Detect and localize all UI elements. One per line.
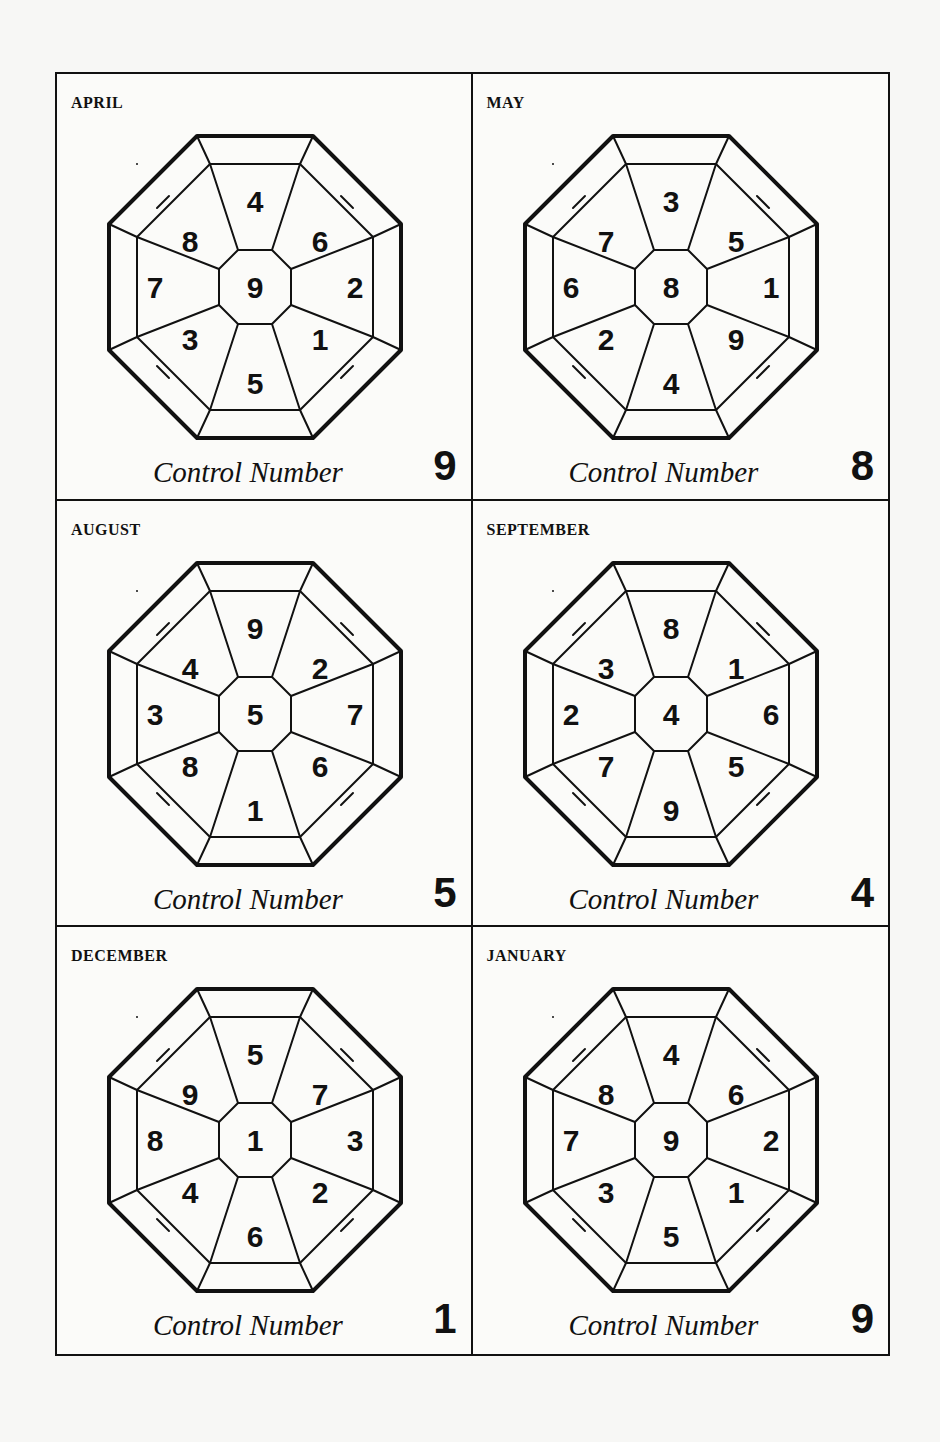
cell-southeast: 2 [312, 1176, 329, 1209]
octagon-chart: 8 1 6 5 9 7 2 3 4 [521, 559, 821, 869]
octagon-chart: 5 7 3 2 6 4 8 9 1 [105, 985, 405, 1295]
cell-north: 4 [247, 185, 264, 218]
octagon-chart: 4 6 2 1 5 3 7 8 9 [521, 985, 821, 1295]
cell-northeast: 7 [312, 1078, 329, 1111]
month-panel: MAY [473, 74, 889, 501]
month-label: AUGUST [71, 521, 141, 539]
octagon-chart: 3 5 1 9 4 2 6 7 8 [521, 132, 821, 442]
cell-northwest: 9 [182, 1078, 199, 1111]
cell-west: 8 [147, 1124, 164, 1157]
cell-northwest: 3 [597, 652, 614, 685]
cell-west: 2 [562, 698, 579, 731]
cell-east: 2 [347, 271, 364, 304]
cell-south: 6 [247, 1220, 264, 1253]
cell-southwest: 2 [597, 323, 614, 356]
cell-east: 7 [347, 698, 364, 731]
cell-south: 4 [662, 367, 679, 400]
month-panel: JANUARY [473, 927, 889, 1354]
cell-center: 4 [662, 698, 679, 731]
month-label: JANUARY [487, 947, 567, 965]
cell-southeast: 5 [727, 750, 744, 783]
cell-south: 1 [247, 794, 264, 827]
month-label: MAY [487, 94, 525, 112]
month-panel: DECEMBER [57, 927, 473, 1354]
month-label: DECEMBER [71, 947, 167, 965]
cell-southwest: 8 [182, 750, 199, 783]
control-number-label: Control Number [153, 456, 343, 489]
month-panel: APRIL [57, 74, 473, 501]
cell-north: 4 [662, 1038, 679, 1071]
cell-southeast: 1 [727, 1176, 744, 1209]
cell-center: 1 [247, 1124, 264, 1157]
octagon-chart: 9 2 7 6 1 8 3 4 5 [105, 559, 405, 869]
month-panel: SEPTEMBER [473, 501, 889, 928]
cell-northeast: 1 [727, 652, 744, 685]
cell-east: 6 [762, 698, 779, 731]
month-label: APRIL [71, 94, 123, 112]
control-number-label: Control Number [569, 883, 759, 916]
cell-southwest: 3 [182, 323, 199, 356]
cell-northeast: 2 [312, 652, 329, 685]
monthly-chart-grid: APRIL [55, 72, 890, 1356]
control-number-value: 1 [433, 1295, 456, 1343]
cell-northeast: 6 [727, 1078, 744, 1111]
cell-west: 7 [562, 1124, 579, 1157]
month-label: SEPTEMBER [487, 521, 590, 539]
control-number-value: 8 [851, 442, 874, 490]
month-panel: AUGUST [57, 501, 473, 928]
cell-southwest: 4 [182, 1176, 199, 1209]
cell-north: 8 [662, 612, 679, 645]
cell-west: 7 [147, 271, 164, 304]
cell-northeast: 5 [727, 225, 744, 258]
cell-southeast: 1 [312, 323, 329, 356]
cell-north: 5 [247, 1038, 264, 1071]
cell-northeast: 6 [312, 225, 329, 258]
control-number-label: Control Number [569, 1309, 759, 1342]
control-number-label: Control Number [569, 456, 759, 489]
cell-southwest: 3 [597, 1176, 614, 1209]
cell-east: 2 [762, 1124, 779, 1157]
cell-north: 3 [662, 185, 679, 218]
cell-northwest: 7 [597, 225, 614, 258]
control-number-label: Control Number [153, 883, 343, 916]
cell-northwest: 8 [597, 1078, 614, 1111]
cell-south: 9 [662, 794, 679, 827]
cell-center: 9 [247, 271, 264, 304]
cell-south: 5 [662, 1220, 679, 1253]
cell-northwest: 4 [182, 652, 199, 685]
cell-west: 3 [147, 698, 164, 731]
cell-south: 5 [247, 367, 264, 400]
cell-northwest: 8 [182, 225, 199, 258]
cell-southeast: 6 [312, 750, 329, 783]
cell-center: 9 [662, 1124, 679, 1157]
cell-west: 6 [562, 271, 579, 304]
octagon-chart: 4 6 2 1 5 3 7 8 9 [105, 132, 405, 442]
cell-southeast: 9 [727, 323, 744, 356]
cell-east: 1 [762, 271, 779, 304]
control-number-value: 9 [851, 1295, 874, 1343]
cell-center: 5 [247, 698, 264, 731]
control-number-value: 4 [851, 869, 874, 917]
control-number-value: 5 [433, 869, 456, 917]
cell-east: 3 [347, 1124, 364, 1157]
control-number-label: Control Number [153, 1309, 343, 1342]
control-number-value: 9 [433, 442, 456, 490]
cell-north: 9 [247, 612, 264, 645]
cell-southwest: 7 [597, 750, 614, 783]
cell-center: 8 [662, 271, 679, 304]
